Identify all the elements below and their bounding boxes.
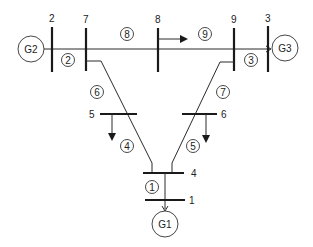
bus-4-label: 4 bbox=[191, 168, 197, 179]
svg-text:6: 6 bbox=[94, 87, 100, 98]
branch-label-1: 1 bbox=[146, 181, 159, 194]
generator-g2-label: G2 bbox=[24, 44, 38, 55]
load-8-arrow-icon bbox=[180, 35, 188, 43]
svg-text:1: 1 bbox=[149, 182, 155, 193]
branch-label-6: 6 bbox=[91, 86, 104, 99]
svg-text:9: 9 bbox=[202, 29, 208, 40]
svg-text:8: 8 bbox=[124, 29, 130, 40]
bus-5-label: 5 bbox=[89, 109, 95, 120]
bus-3-label: 3 bbox=[265, 13, 271, 24]
bus-6-label: 6 bbox=[221, 109, 227, 120]
bus-9-label: 9 bbox=[231, 14, 237, 25]
svg-text:7: 7 bbox=[220, 87, 226, 98]
svg-text:4: 4 bbox=[124, 141, 130, 152]
branch-label-5: 5 bbox=[187, 140, 200, 153]
svg-text:3: 3 bbox=[248, 55, 254, 66]
bus-7-label: 7 bbox=[83, 14, 89, 25]
generator-g1-label: G1 bbox=[158, 219, 172, 230]
branch-label-9: 9 bbox=[199, 28, 212, 41]
generator-g3-label: G3 bbox=[278, 43, 292, 54]
bus-8-label: 8 bbox=[155, 14, 161, 25]
load-5-arrow-icon bbox=[108, 133, 116, 141]
svg-text:2: 2 bbox=[65, 55, 71, 66]
svg-text:5: 5 bbox=[190, 141, 196, 152]
branch-6-line bbox=[86, 61, 152, 172]
branch-label-3: 3 bbox=[245, 54, 258, 67]
branch-label-4: 4 bbox=[121, 140, 134, 153]
branch-label-2: 2 bbox=[62, 54, 75, 67]
branch-label-8: 8 bbox=[121, 28, 134, 41]
load-6-arrow-icon bbox=[202, 135, 210, 143]
branch-label-7: 7 bbox=[217, 86, 230, 99]
one-line-diagram: 2 7 8 9 3 G2 G3 5 6 4 1 G1 1 2 bbox=[0, 0, 313, 247]
bus-2-label: 2 bbox=[49, 13, 55, 24]
bus-1-label: 1 bbox=[189, 195, 195, 206]
